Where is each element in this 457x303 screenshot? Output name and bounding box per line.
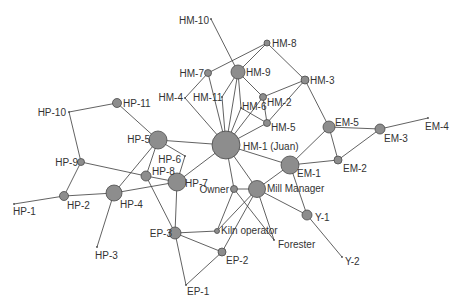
nodes-layer — [13, 18, 429, 286]
node-label-hm-7: HM-7 — [180, 68, 205, 79]
node-hp-10 — [68, 111, 70, 113]
edge-ep-3-to-ep-2 — [175, 233, 222, 252]
node-label-em-2: EM-2 — [343, 163, 367, 174]
edge-hp-8-to-hp-9 — [81, 162, 146, 176]
node-hp-3 — [96, 246, 98, 248]
node-hp-5 — [149, 131, 167, 149]
edge-ep-3-to-ep-1 — [175, 233, 186, 285]
node-em-5 — [323, 121, 335, 133]
node-label-mill-manager: Mill Manager — [267, 183, 325, 194]
node-hp-8 — [141, 171, 151, 181]
node-label-hm-9: HM-9 — [246, 67, 271, 78]
node-hp-9 — [78, 159, 85, 166]
node-label-hp-3: HP-3 — [95, 250, 118, 261]
node-owner — [231, 186, 238, 193]
node-label-hm-10: HM-10 — [179, 15, 209, 26]
node-hm-5 — [264, 120, 271, 127]
edge-ep-2-to-ep-1 — [186, 252, 222, 285]
node-label-em-1: EM-1 — [297, 168, 321, 179]
node-y-1 — [302, 210, 312, 220]
node-label-ep-1: EP-1 — [187, 286, 210, 297]
node-label-hm-11: HM-11 — [193, 92, 223, 103]
network-diagram: HM-10HM-8HM-7HM-9HM-3HM-4HM-11HM-2HM-6HM… — [0, 0, 457, 303]
edge-hp-2-to-hp-1 — [14, 196, 64, 204]
node-forester — [273, 239, 275, 241]
node-label-hp-5: HP-5 — [127, 134, 150, 145]
node-hp-11 — [113, 99, 122, 108]
edge-hm-2-to-hm-3 — [263, 80, 305, 97]
node-label-owner: Owner — [200, 184, 230, 195]
node-hm-10 — [210, 18, 212, 20]
edge-em-3-to-em-4 — [380, 118, 428, 129]
node-label-hm-4: HM-4 — [159, 92, 184, 103]
node-label-hp-11: HP-11 — [123, 98, 151, 109]
node-label-hm-2: HM-2 — [267, 97, 292, 108]
node-label-y-1: Y-1 — [315, 212, 330, 223]
edge-em-3-to-em-2 — [338, 129, 380, 160]
node-label-ep-3: EP-3 — [150, 228, 173, 239]
node-label-hp-10: HP-10 — [38, 107, 67, 118]
node-label-em-3: EM-3 — [384, 133, 408, 144]
node-label-hm-8: HM-8 — [272, 38, 297, 49]
node-y-2 — [341, 256, 343, 258]
edge-hm-10-to-hm-9 — [211, 19, 238, 72]
node-hm-8 — [264, 40, 270, 46]
node-label-forester: Forester — [278, 239, 316, 250]
node-hp-1 — [13, 203, 15, 205]
node-label-hm-3: HM-3 — [310, 75, 335, 86]
node-label-hp-8: HP-8 — [152, 166, 175, 177]
node-hm-9 — [231, 65, 245, 79]
node-label-hp-1: HP-1 — [13, 206, 36, 217]
node-label-ep-2: EP-2 — [226, 255, 249, 266]
node-label-hp-6: HP-6 — [158, 154, 181, 165]
node-em-2 — [334, 156, 342, 164]
node-label-hp-4: HP-4 — [120, 199, 143, 210]
node-hm-3 — [301, 76, 309, 84]
node-label-y-2: Y-2 — [345, 256, 360, 267]
node-hm-1 — [212, 131, 240, 159]
node-label-hp-9: HP-9 — [55, 157, 78, 168]
node-label-kiln-operator: Kiln operator — [221, 225, 278, 236]
node-label-hm-6: HM-6 — [242, 101, 267, 112]
edge-hm-3-to-em-5 — [305, 80, 329, 127]
edge-hp-7-to-hp-4 — [114, 182, 177, 193]
network-graph-canvas: HM-10HM-8HM-7HM-9HM-3HM-4HM-11HM-2HM-6HM… — [0, 0, 457, 303]
edge-hp-10-to-hp-9 — [69, 112, 81, 162]
node-hm-4 — [184, 97, 186, 99]
node-ep-2 — [218, 248, 226, 256]
node-hm-2 — [260, 94, 267, 101]
node-label-hm-5: HM-5 — [271, 122, 296, 133]
node-label-em-4: EM-4 — [425, 121, 449, 132]
edge-hp-11-to-hp-10 — [69, 103, 117, 112]
node-hm-7 — [205, 70, 212, 77]
node-mill-manager — [249, 181, 266, 198]
node-hp-6 — [184, 155, 186, 157]
node-label-em-5: EM-5 — [335, 117, 359, 128]
edge-hp-4-to-hp-3 — [97, 193, 114, 247]
node-label-hm-1: HM-1 (Juan) — [243, 141, 299, 152]
node-kiln-operator — [215, 229, 220, 234]
node-label-hp-2: HP-2 — [67, 200, 90, 211]
node-em-4 — [427, 117, 429, 119]
